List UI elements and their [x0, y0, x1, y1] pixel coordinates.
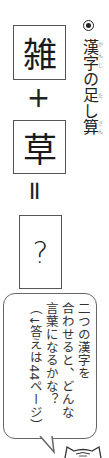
- bubble-line-1: 二つの漢字を: [74, 302, 90, 432]
- title-no: の: [80, 71, 99, 87]
- question-mark: ?: [33, 235, 49, 270]
- bubble-line-4: （↓答えは44ページ）: [26, 302, 42, 432]
- title-tashi: 足た: [80, 87, 99, 103]
- bubble-line-2: 合わせると、どんな: [58, 302, 74, 432]
- kanji-box-term1: 雑: [13, 25, 66, 80]
- title-shi: し: [80, 103, 99, 119]
- bullet-icon: [83, 20, 94, 31]
- kanji-box-term2: 草: [13, 120, 66, 174]
- title-zan: 算ざん: [80, 119, 99, 135]
- kanji-term2: 草: [23, 123, 57, 172]
- section-title: 漢字かんじの足たし算ざん: [69, 20, 103, 135]
- bubble-tail: [38, 436, 60, 454]
- speech-bubble: 二つの漢字を 合わせると、どんな 言葉になるかな？ （↓答えは44ページ）: [3, 293, 97, 439]
- equals-sign: =: [30, 178, 48, 204]
- cat-mascot-icon: [62, 444, 104, 458]
- title-kanji: 漢字かんじ: [80, 39, 99, 71]
- plus-sign: +: [13, 84, 64, 112]
- bubble-line-3: 言葉になるかな？: [42, 302, 58, 432]
- bubble-text: 二つの漢字を 合わせると、どんな 言葉になるかな？ （↓答えは44ページ）: [26, 302, 90, 432]
- kanji-term1: 雑: [23, 28, 57, 77]
- answer-box: ?: [19, 215, 62, 289]
